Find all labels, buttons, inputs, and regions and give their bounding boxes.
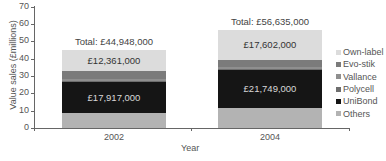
bar-segment-polycell	[62, 81, 166, 82]
y-axis-title: Value sales (£millions)	[8, 10, 18, 120]
segment-value-label: £21,749,000	[218, 83, 322, 94]
x-tick-mark	[34, 128, 35, 131]
legend-item: Others	[336, 107, 384, 119]
y-tick-mark	[31, 111, 34, 112]
segment-value-label: £17,602,000	[218, 39, 322, 50]
x-category-label: 2002	[84, 132, 144, 142]
segment-value-label: £12,361,000	[62, 55, 166, 66]
x-tick-mark	[349, 128, 350, 131]
bar-segment-evo-stik	[62, 71, 166, 79]
y-tick-mark	[31, 76, 34, 77]
y-tick-mark	[31, 41, 34, 42]
legend-swatch	[336, 74, 341, 79]
y-tick-label: 0	[15, 122, 29, 132]
y-tick-label: 70	[15, 1, 29, 11]
bar-segment-unibond: £17,917,000	[62, 82, 166, 113]
bar-2004: £21,749,000£17,602,000	[218, 30, 322, 128]
bar-segment-own-label: £17,602,000	[218, 30, 322, 61]
stacked-bar-chart: 010203040506070 Value sales (£millions) …	[0, 0, 386, 161]
legend-swatch	[336, 99, 341, 104]
legend-swatch	[336, 50, 341, 55]
legend-label: Evo-stik	[343, 59, 375, 69]
legend-item: UniBond	[336, 95, 384, 107]
segment-value-label: £17,917,000	[62, 92, 166, 103]
legend-item: Polycell	[336, 83, 384, 95]
bar-segment-own-label: £12,361,000	[62, 50, 166, 71]
legend-label: UniBond	[343, 96, 378, 106]
y-tick-mark	[31, 59, 34, 60]
x-category-label: 2004	[240, 132, 300, 142]
bar-segment-others	[62, 113, 166, 128]
legend-swatch	[336, 62, 341, 67]
legend-label: Vallance	[343, 72, 377, 82]
bar-segment-vallance	[62, 79, 166, 81]
legend-label: Own-label	[343, 47, 384, 57]
bar-segment-polycell	[218, 69, 322, 70]
legend-label: Polycell	[343, 84, 374, 94]
legend-swatch	[336, 87, 341, 92]
legend-item: Own-label	[336, 46, 384, 58]
legend: Own-labelEvo-stikVallancePolycellUniBond…	[336, 46, 384, 120]
bar-2002: £17,917,000£12,361,000	[62, 50, 166, 128]
bar-segment-evo-stik	[218, 60, 322, 67]
legend-item: Vallance	[336, 71, 384, 83]
x-axis-line	[34, 128, 350, 129]
bar-segment-others	[218, 108, 322, 128]
y-tick-mark	[31, 93, 34, 94]
y-tick-mark	[31, 7, 34, 8]
total-label-2002: Total: £44,948,000	[44, 36, 184, 47]
total-label-2004: Total: £56,635,000	[200, 16, 340, 27]
x-axis-title: Year	[181, 143, 199, 153]
x-tick-mark	[191, 128, 192, 131]
bar-segment-vallance	[218, 67, 322, 69]
bar-segment-unibond: £21,749,000	[218, 70, 322, 108]
legend-swatch	[336, 111, 341, 116]
legend-label: Others	[343, 109, 370, 119]
legend-item: Evo-stik	[336, 58, 384, 70]
y-tick-mark	[31, 24, 34, 25]
y-axis-line	[34, 6, 35, 129]
